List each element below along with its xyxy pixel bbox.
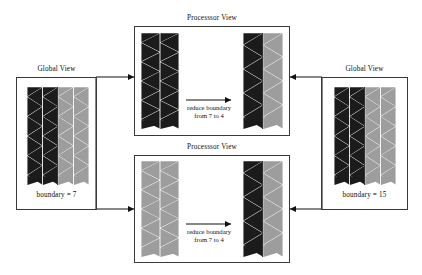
reduce-boundary-line2-bottom: from 7 to 4 [176, 236, 242, 244]
diagram-canvas: Global View Global View Processsor View … [0, 0, 422, 275]
processor-bottom-before-mesh [141, 161, 179, 257]
reduce-boundary-line1-top: reduce boundary [176, 104, 242, 112]
global-view-right-mesh [334, 87, 396, 185]
reduce-boundary-label-bottom: reduce boundary from 7 to 4 [176, 228, 242, 243]
right-boundary-label: boundary = 15 [321, 191, 408, 199]
processor-view-bottom-title: Processsor View [134, 143, 290, 151]
processor-bottom-after-mesh [243, 161, 283, 257]
reduce-boundary-line1-bottom: reduce boundary [176, 228, 242, 236]
global-view-right-title: Global View [321, 65, 408, 73]
processor-top-after-mesh [243, 33, 283, 129]
processor-top-before-mesh [141, 33, 179, 129]
left-boundary-label: boundary = 7 [16, 191, 97, 199]
triangle-strip [334, 87, 396, 185]
global-view-left-title: Global View [16, 65, 97, 73]
global-view-left-mesh [27, 87, 89, 185]
triangle-strip [243, 33, 283, 129]
reduce-boundary-label-top: reduce boundary from 7 to 4 [176, 104, 242, 119]
triangle-strip [27, 87, 89, 185]
processor-view-top-title: Processsor View [134, 14, 290, 22]
triangle-strip [141, 33, 179, 129]
triangle-strip [141, 161, 179, 257]
triangle-strip [243, 161, 283, 257]
reduce-boundary-line2-top: from 7 to 4 [176, 112, 242, 120]
